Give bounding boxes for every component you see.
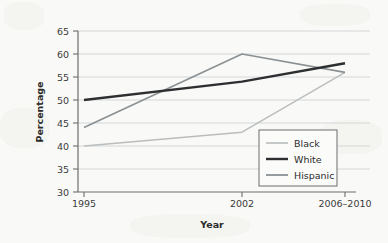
x-axis-title: Year — [199, 219, 224, 230]
series-line-hispanic — [84, 54, 345, 128]
y-tick-label-40: 40 — [57, 141, 69, 152]
y-tick-label-60: 60 — [57, 49, 69, 60]
line-chart: 65 60 55 50 45 40 35 30 1995 2002 2006–2… — [0, 0, 388, 243]
y-tick-label-35: 35 — [57, 164, 69, 175]
y-tick-marks — [73, 31, 78, 192]
y-tick-label-55: 55 — [57, 72, 69, 83]
y-tick-label-65: 65 — [57, 26, 69, 37]
x-tick-label-2002: 2002 — [230, 198, 254, 209]
legend-label-black[interactable]: Black — [294, 138, 320, 149]
legend-label-white[interactable]: White — [294, 154, 322, 165]
y-axis-title: Percentage — [34, 81, 45, 142]
y-tick-label-50: 50 — [57, 95, 69, 106]
chart-legend[interactable]: Black White Hispanic — [259, 130, 337, 186]
chart-page: 65 60 55 50 45 40 35 30 1995 2002 2006–2… — [0, 0, 388, 243]
x-tick-label-2006-2010: 2006–2010 — [318, 198, 371, 209]
y-tick-label-45: 45 — [57, 118, 69, 129]
legend-label-hispanic[interactable]: Hispanic — [294, 170, 334, 181]
x-tick-marks — [84, 192, 345, 197]
x-tick-label-1995: 1995 — [72, 198, 96, 209]
y-tick-label-30: 30 — [57, 187, 69, 198]
